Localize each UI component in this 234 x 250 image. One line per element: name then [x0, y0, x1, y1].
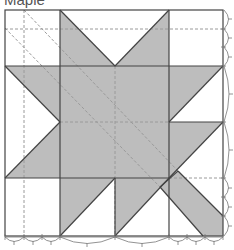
maple-block-diagram [0, 0, 234, 250]
filled-pieces [5, 10, 223, 236]
